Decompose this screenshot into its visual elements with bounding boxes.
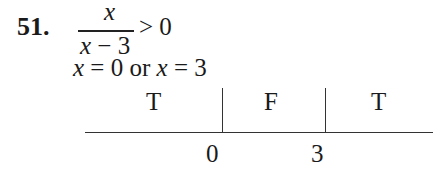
problem-number: 51. (17, 12, 50, 42)
divider-at-3 (325, 88, 326, 133)
tick-label-3: 3 (311, 140, 324, 168)
inequality-rhs: > 0 (139, 13, 172, 41)
var-x: x (157, 54, 168, 81)
interval-label-2: F (264, 88, 278, 116)
critical-values: x = 0 or x = 3 (73, 54, 207, 82)
number-line (85, 132, 433, 133)
interval-label-3: T (371, 88, 386, 116)
var-x: x (73, 54, 84, 81)
interval-label-1: T (146, 88, 161, 116)
text: = 0 or (84, 54, 156, 81)
text: = 3 (168, 54, 207, 81)
fraction-numerator: x (104, 0, 115, 26)
divider-at-0 (222, 88, 223, 133)
tick-label-0: 0 (206, 140, 219, 168)
